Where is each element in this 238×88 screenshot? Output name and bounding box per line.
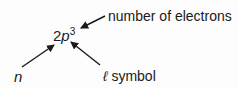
n-label: n xyxy=(14,69,22,84)
symbol-text: symbol xyxy=(111,68,155,84)
electron-count: 3 xyxy=(70,26,76,37)
orbital-notation: 2p3 xyxy=(53,27,75,43)
electrons-label: number of electrons xyxy=(108,9,232,23)
electrons-arrow xyxy=(81,16,105,28)
subshell-letter: p xyxy=(61,27,69,44)
n-arrow xyxy=(22,45,54,67)
l-arrow xyxy=(71,42,100,65)
ell-glyph: ℓ xyxy=(103,68,108,84)
l-symbol-label: ℓ symbol xyxy=(103,69,156,83)
